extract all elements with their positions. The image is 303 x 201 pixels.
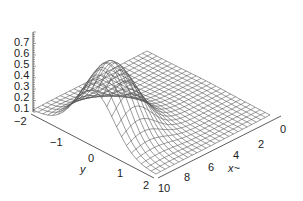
x-tick-label: 6 xyxy=(208,162,214,173)
x-tick-label: 2 xyxy=(258,139,264,150)
surface-plot xyxy=(0,0,303,201)
y-tick-label: −1 xyxy=(50,137,63,148)
z-tick-label: 0.1 xyxy=(14,103,29,114)
x-tick-label: 8 xyxy=(184,172,190,183)
x-tick-label: 10 xyxy=(158,183,170,194)
x-tick-label: 4 xyxy=(233,150,239,161)
y-tick-label: 0 xyxy=(88,153,94,164)
x-axis-title: x~ xyxy=(228,163,240,174)
y-tick-label: 1 xyxy=(117,168,123,179)
x-tick-label: 0 xyxy=(280,124,286,135)
y-tick-label: −2 xyxy=(14,116,27,127)
y-axis-title: y xyxy=(80,164,86,175)
y-tick-label: 2 xyxy=(143,180,149,191)
